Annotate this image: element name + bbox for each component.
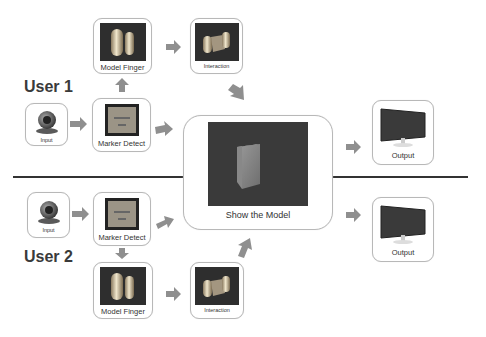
arrow-right-icon (155, 121, 173, 136)
user-1-input-box[interactable]: Input (25, 103, 68, 146)
arrow-right-icon (166, 40, 181, 54)
arrow-right-icon (72, 207, 89, 221)
show-the-model-label: Show the Model (226, 210, 291, 220)
user-2-interaction-box[interactable]: Interaction (190, 262, 244, 319)
user-2-label: User 2 (24, 248, 73, 266)
interaction-icon (195, 23, 239, 61)
user-1-output-label: Output (392, 151, 415, 160)
user-1-interaction-label: Interaction (204, 63, 230, 69)
user-1-output-box[interactable]: Output (372, 100, 434, 165)
user-2-input-label: Input (42, 227, 54, 233)
arrow-down-icon (228, 84, 244, 100)
arrow-right-icon (156, 216, 174, 229)
user-2-output-box[interactable]: Output (372, 197, 434, 262)
arrow-up-icon (115, 78, 129, 92)
user-2-marker-detect-box[interactable]: Marker Detect (93, 192, 151, 246)
arrow-right-icon (70, 117, 87, 131)
interaction-icon (195, 267, 239, 305)
user-1-model-finger-box[interactable]: Model Finger (93, 18, 152, 74)
arrow-right-icon (166, 287, 181, 301)
user-2-output-label: Output (392, 248, 415, 257)
divider-line-left (13, 176, 183, 178)
user-2-input-box[interactable]: Input (27, 192, 70, 238)
arrow-right-icon (346, 140, 361, 154)
cube-icon (208, 122, 308, 206)
arrow-right-icon (346, 208, 361, 222)
monitor-icon (378, 204, 428, 246)
divider-line-right (333, 176, 468, 178)
user-1-marker-detect-box[interactable]: Marker Detect (92, 98, 151, 152)
user-2-model-finger-label: Model Finger (101, 307, 145, 316)
user-1-label: User 1 (24, 78, 73, 96)
user-1-model-finger-label: Model Finger (101, 63, 145, 72)
user-2-marker-detect-label: Marker Detect (98, 233, 145, 242)
user-1-input-label: Input (40, 137, 52, 143)
user-1-marker-detect-label: Marker Detect (98, 139, 145, 148)
marker-icon (105, 198, 139, 230)
user-1-interaction-box[interactable]: Interaction (190, 18, 243, 74)
webcam-icon (36, 199, 62, 225)
user-2-model-finger-box[interactable]: Model Finger (93, 262, 153, 319)
show-the-model-box[interactable]: Show the Model (183, 115, 333, 230)
monitor-icon (378, 107, 428, 149)
finger-model-icon (100, 23, 146, 61)
marker-icon (105, 104, 139, 136)
webcam-icon (34, 109, 60, 135)
user-2-interaction-label: Interaction (204, 307, 230, 313)
arrow-down-icon (115, 248, 129, 259)
arrow-up-icon (238, 238, 252, 258)
finger-model-icon (100, 267, 146, 305)
